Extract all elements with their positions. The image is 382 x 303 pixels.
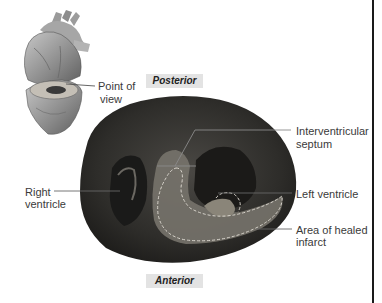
- left-ventricle-label: Left ventricle: [296, 188, 358, 200]
- septum-label-2: septum: [296, 138, 332, 150]
- heart-specimen-image: [80, 96, 296, 263]
- heart-figure-art: [0, 0, 382, 303]
- infarct-label-1: Area of healed: [296, 224, 368, 236]
- point-of-view-label-2: view: [100, 93, 122, 105]
- heart-illustration-icon: [24, 10, 90, 134]
- point-of-view-label-1: Point of: [98, 80, 135, 92]
- anterior-label: Anterior: [146, 274, 203, 288]
- septum-label-1: Interventricular: [296, 125, 369, 137]
- posterior-label: Posterior: [146, 74, 203, 88]
- right-ventricle-label-1: Right: [25, 186, 51, 198]
- right-ventricle-label-2: ventricle: [25, 198, 66, 210]
- infarct-label-2: infarct: [296, 236, 326, 248]
